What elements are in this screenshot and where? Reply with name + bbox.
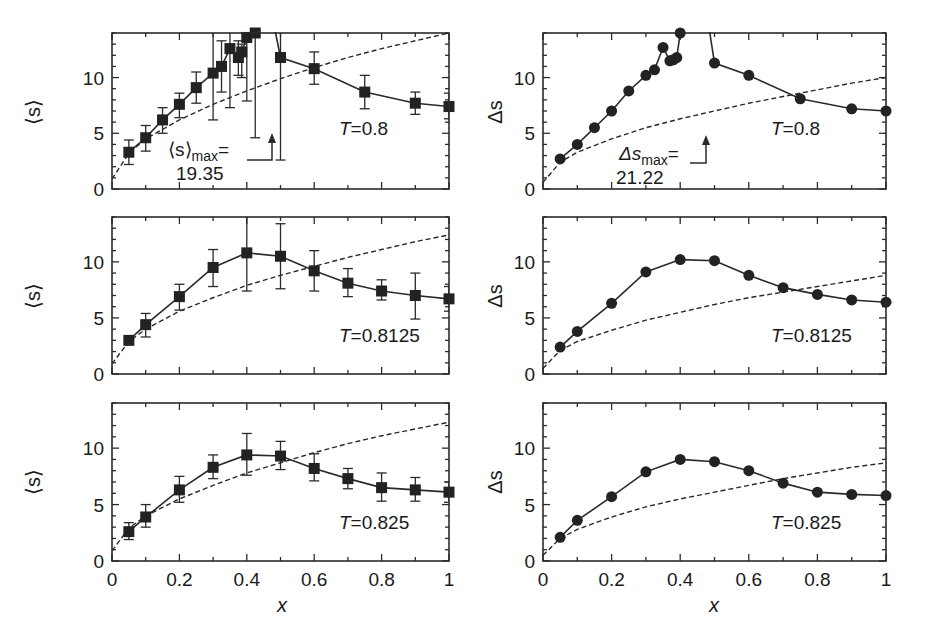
x-axis-label-left: x xyxy=(276,594,288,616)
data-point xyxy=(241,247,252,258)
data-point xyxy=(623,85,634,96)
data-point xyxy=(675,254,686,265)
data-point xyxy=(191,82,202,93)
data-point xyxy=(658,42,669,53)
data-point xyxy=(709,456,720,467)
temperature-label: T=0.825 xyxy=(771,512,841,533)
data-point xyxy=(275,251,286,262)
data-point xyxy=(174,99,185,110)
data-point xyxy=(309,463,320,474)
data-point xyxy=(743,70,754,81)
y-tick-label: 0 xyxy=(524,364,535,385)
panel-bottom-left: 051000.20.40.60.81T=0.825 xyxy=(83,403,455,590)
svg-text:⟨s⟩max=: ⟨s⟩max= xyxy=(168,139,229,164)
x-tick-label: 1 xyxy=(881,569,892,590)
data-point xyxy=(309,63,320,74)
y-tick-label: 5 xyxy=(93,123,104,144)
x-tick-label: 0.2 xyxy=(598,569,624,590)
data-point xyxy=(140,511,151,522)
data-point xyxy=(649,64,660,75)
temperature-label: T=0.8125 xyxy=(339,325,420,346)
figure: 0510T=0.8 0510T=0.8 0510T=0.8125 0510T=0… xyxy=(0,0,933,641)
data-point xyxy=(589,122,600,133)
y-axis-label-middle-left: ⟨s⟩ xyxy=(22,283,44,309)
data-point xyxy=(140,319,151,330)
data-point xyxy=(846,103,857,114)
svg-text:Δsmax=: Δsmax= xyxy=(618,143,679,168)
temperature-label: T=0.825 xyxy=(339,512,409,533)
data-point xyxy=(376,482,387,493)
data-point xyxy=(795,93,806,104)
y-tick-label: 5 xyxy=(524,308,535,329)
x-tick-label: 0.4 xyxy=(234,569,261,590)
plot-frame xyxy=(543,217,886,374)
data-point xyxy=(241,449,252,460)
data-point xyxy=(140,132,151,143)
data-point xyxy=(410,98,421,109)
data-point xyxy=(123,526,134,537)
data-point xyxy=(376,286,387,297)
y-tick-label: 0 xyxy=(93,364,104,385)
data-point xyxy=(606,491,617,502)
data-point xyxy=(174,291,185,302)
data-point xyxy=(157,114,168,125)
y-tick-label: 10 xyxy=(83,252,104,273)
annotation-delta-max-value: 21.22 xyxy=(616,167,664,188)
data-point xyxy=(123,335,134,346)
data-point xyxy=(410,484,421,495)
data-line xyxy=(560,0,886,159)
data-point xyxy=(342,278,353,289)
temperature-label: T=0.8 xyxy=(339,118,388,139)
data-point xyxy=(743,465,754,476)
data-point xyxy=(572,326,583,337)
data-point xyxy=(236,46,247,57)
data-point xyxy=(275,52,286,63)
data-point xyxy=(709,255,720,266)
y-tick-label: 10 xyxy=(514,252,535,273)
y-tick-label: 5 xyxy=(524,123,535,144)
data-point xyxy=(174,484,185,495)
y-axis-label-bottom-right: Δs xyxy=(484,470,506,493)
data-point xyxy=(208,262,219,273)
panel-bottom-right: 051000.20.40.60.81T=0.825 xyxy=(514,403,892,590)
x-tick-label: 0 xyxy=(538,569,549,590)
x-tick-label: 0.6 xyxy=(301,569,327,590)
data-point xyxy=(640,466,651,477)
data-point xyxy=(555,532,566,543)
data-point xyxy=(812,289,823,300)
data-point xyxy=(778,478,789,489)
x-tick-label: 0 xyxy=(107,569,118,590)
data-point xyxy=(309,265,320,276)
temperature-label: T=0.8125 xyxy=(771,325,852,346)
y-tick-label: 10 xyxy=(83,68,104,89)
plot-frame xyxy=(543,33,886,189)
y-tick-label: 10 xyxy=(83,438,104,459)
y-tick-label: 0 xyxy=(93,551,104,572)
data-point xyxy=(275,451,286,462)
y-tick-label: 0 xyxy=(93,179,104,200)
x-tick-label: 1 xyxy=(444,569,455,590)
y-axis-label-top-left: ⟨s⟩ xyxy=(22,99,44,125)
arrow-up-icon xyxy=(247,138,272,160)
data-point xyxy=(216,61,227,72)
data-point xyxy=(410,290,421,301)
data-point xyxy=(606,298,617,309)
data-point xyxy=(846,489,857,500)
x-tick-label: 0.2 xyxy=(166,569,192,590)
annotation-mean-max-value: 19.35 xyxy=(176,163,224,184)
y-tick-label: 0 xyxy=(524,179,535,200)
data-point xyxy=(555,153,566,164)
annotation-mean-max-symbol: ⟨s⟩ xyxy=(168,139,192,160)
data-point xyxy=(778,282,789,293)
x-tick-label: 0.8 xyxy=(368,569,394,590)
y-tick-label: 5 xyxy=(93,308,104,329)
panel-middle-left: 0510T=0.8125 xyxy=(83,217,455,385)
data-point xyxy=(640,266,651,277)
data-point xyxy=(812,487,823,498)
x-tick-label: 0.4 xyxy=(667,569,694,590)
annotation-mean-max-sub: max xyxy=(192,148,218,164)
data-point xyxy=(743,270,754,281)
data-point xyxy=(123,147,134,158)
data-point xyxy=(342,473,353,484)
annotation-mean-max: ⟨s⟩max= 19.35 xyxy=(168,133,276,184)
